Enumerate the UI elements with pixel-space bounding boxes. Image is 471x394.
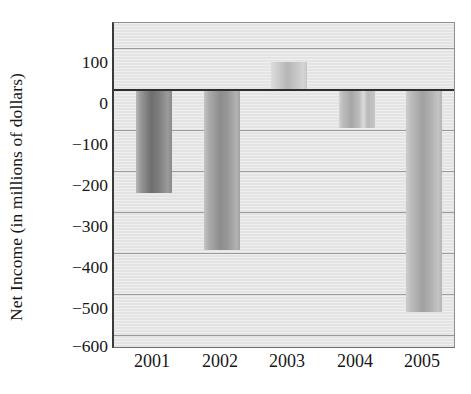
y-tick-label-neg200: −200 [46, 177, 108, 195]
gridline-100 [114, 48, 454, 49]
bar-2003[interactable] [271, 62, 307, 89]
x-tick-label-2003: 2003 [269, 352, 305, 372]
gridline-neg500 [114, 294, 454, 295]
gridline-neg400 [114, 253, 454, 254]
x-tick-label-2004: 2004 [337, 352, 373, 372]
bar-chart: Net Income (in millions of dollars) 100 … [0, 0, 471, 394]
gridline-neg600 [114, 335, 454, 336]
y-tick-label-neg500: −500 [46, 300, 108, 318]
y-tick-label-neg300: −300 [46, 218, 108, 236]
bar-2005[interactable] [406, 91, 442, 312]
y-tick-label-0: 0 [46, 95, 108, 113]
y-tick-label-neg400: −400 [46, 259, 108, 277]
y-tick-label-neg600: −600 [46, 338, 108, 356]
bar-2001[interactable] [136, 91, 172, 193]
y-axis-tick-labels: 100 0 −100 −200 −300 −400 −500 −600 [46, 22, 108, 348]
y-tick-label-100: 100 [46, 54, 108, 72]
bar-2002[interactable] [204, 91, 240, 250]
x-tick-label-2005: 2005 [404, 352, 440, 372]
y-tick-label-neg100: −100 [46, 136, 108, 154]
x-tick-label-2002: 2002 [202, 352, 238, 372]
y-axis-title: Net Income (in millions of dollars) [0, 0, 32, 394]
x-axis-tick-labels: 2001 2002 2003 2004 2005 [112, 352, 455, 382]
gridline-neg300 [114, 212, 454, 213]
x-tick-label-2001: 2001 [134, 352, 170, 372]
bar-2004[interactable] [339, 91, 375, 128]
plot-area [112, 22, 455, 348]
